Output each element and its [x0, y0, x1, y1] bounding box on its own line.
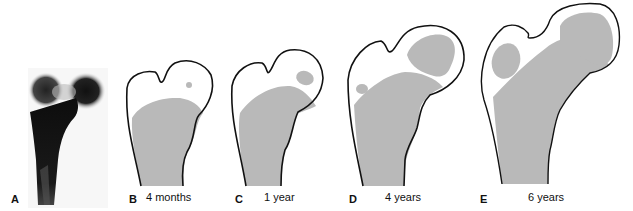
femur-figure	[0, 0, 633, 211]
panel-b-drawing	[127, 61, 213, 186]
panel-b-letter: B	[129, 193, 137, 205]
panel-e-drawing	[481, 4, 619, 184]
panel-d-drawing	[348, 26, 464, 186]
panel-c-drawing	[232, 50, 323, 186]
panel-c-caption: 1 year	[264, 191, 295, 203]
panel-b-caption: 4 months	[146, 191, 191, 203]
panel-c-letter: C	[235, 193, 243, 205]
panel-a-radiograph	[28, 68, 108, 208]
panel-e-caption: 6 years	[528, 191, 564, 203]
panel-d-letter: D	[349, 193, 357, 205]
panel-d-caption: 4 years	[385, 191, 421, 203]
panel-e-letter: E	[480, 193, 487, 205]
panel-a-letter: A	[11, 193, 19, 205]
